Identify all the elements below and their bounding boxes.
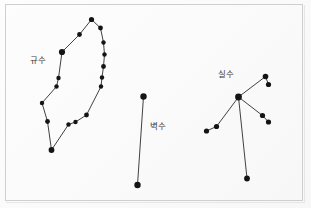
star-node bbox=[244, 176, 250, 182]
constellation-edge bbox=[217, 97, 239, 127]
star-node bbox=[49, 147, 55, 153]
star-node bbox=[263, 74, 269, 80]
constellation-edge bbox=[59, 52, 63, 78]
star-node bbox=[73, 120, 77, 124]
constellation-edge bbox=[87, 87, 102, 116]
constellation-edge bbox=[62, 35, 80, 53]
star-node bbox=[214, 124, 219, 129]
star-node bbox=[98, 26, 103, 31]
constellation-edge bbox=[52, 125, 69, 151]
star-node bbox=[134, 182, 140, 188]
star-node bbox=[56, 76, 60, 80]
star-node bbox=[77, 32, 82, 37]
constellation-edge bbox=[48, 122, 52, 151]
constellation-edge bbox=[80, 20, 92, 35]
star-node bbox=[266, 82, 271, 87]
star-node bbox=[99, 84, 103, 88]
star-node bbox=[66, 122, 70, 126]
star-node bbox=[89, 17, 94, 22]
constellation-edge bbox=[138, 97, 144, 186]
star-node bbox=[235, 94, 242, 101]
constellation-name-label: 실수 bbox=[218, 70, 235, 79]
constellation-name-label: 벽수 bbox=[150, 122, 167, 131]
constellation-edge bbox=[239, 77, 266, 98]
star-node bbox=[54, 84, 58, 88]
star-node bbox=[84, 113, 89, 118]
star-node bbox=[40, 101, 44, 105]
constellation-svg bbox=[0, 0, 311, 208]
constellation-canvas bbox=[0, 0, 311, 208]
star-node bbox=[204, 128, 209, 133]
star-node bbox=[102, 52, 106, 56]
star-chart-figure: 규수벽수실수 bbox=[0, 0, 311, 208]
star-node bbox=[101, 40, 105, 44]
star-node bbox=[45, 119, 50, 124]
star-node bbox=[59, 49, 65, 55]
constellation-edge bbox=[239, 97, 263, 116]
constellation-edge bbox=[42, 103, 48, 122]
star-node bbox=[266, 119, 271, 124]
star-node bbox=[100, 75, 104, 79]
constellation-edge bbox=[239, 97, 248, 179]
star-node bbox=[260, 113, 265, 118]
constellation-edge bbox=[42, 87, 57, 104]
star-node bbox=[101, 64, 106, 69]
constellation-name-label: 규수 bbox=[30, 56, 47, 65]
star-node bbox=[140, 93, 146, 99]
constellation-stars bbox=[40, 17, 271, 188]
constellation-edges bbox=[42, 20, 269, 186]
